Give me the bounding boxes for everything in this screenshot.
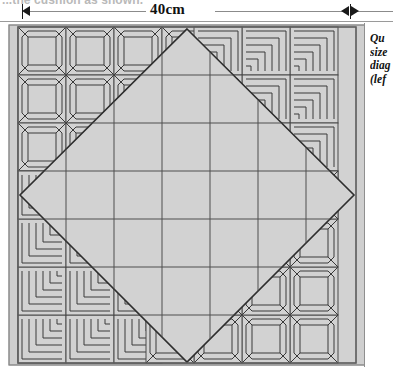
caption-line-3: diag [370,59,393,73]
dimension-rule-right [215,11,345,12]
arrow-right-icon [22,6,30,16]
dimension-label: 40cm [150,1,185,18]
caption-line-1: Qu [370,32,393,46]
dimension-rule-left [24,11,146,12]
quilting-diagram-page: ...the cushion as shown. 40cm [0,0,393,367]
caption-line-4: (lef [370,73,393,87]
quilting-plan-diagram [0,23,393,367]
plan-svg [0,23,393,367]
caption-line-2: size [370,46,393,60]
dimension-band: 40cm [0,0,393,23]
figure-caption: Qu size diag (lef [370,32,393,86]
header-divider [0,21,393,22]
arrow-right-icon [341,6,349,16]
dimension-rule-far [357,11,393,12]
margin-rule [364,23,365,367]
arrow-left-icon [351,6,359,16]
